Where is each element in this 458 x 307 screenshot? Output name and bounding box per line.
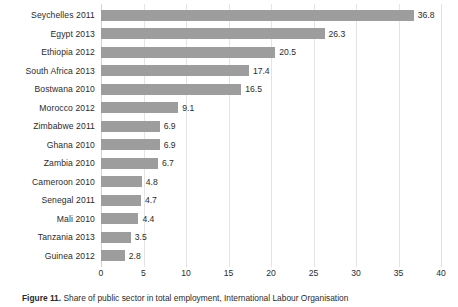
- bar-row: Tanzania 20133.5: [0, 228, 458, 247]
- x-axis-tick-label: 30: [351, 268, 361, 278]
- bar-track: 4.7: [101, 191, 441, 210]
- bar-row: Zimbabwe 20116.9: [0, 117, 458, 136]
- bar-track: 20.5: [101, 43, 441, 62]
- bar: [101, 102, 178, 113]
- bar: [101, 121, 160, 132]
- bar-category-label: Morocco 2012: [0, 99, 95, 118]
- bar-value-label: 6.7: [158, 154, 174, 173]
- figure-caption-label: Figure 11.: [22, 293, 61, 303]
- bar-row: Senegal 20114.7: [0, 191, 458, 210]
- bar-track: 9.1: [101, 99, 441, 118]
- bar-row: Zambia 20106.7: [0, 154, 458, 173]
- bar-value-label: 9.1: [178, 99, 194, 118]
- x-axis-tick-label: 5: [141, 268, 146, 278]
- bar: [101, 232, 131, 243]
- bar: [101, 158, 158, 169]
- bar-track: 6.7: [101, 154, 441, 173]
- bar-row: Bostwana 201016.5: [0, 80, 458, 99]
- bar-track: 4.4: [101, 210, 441, 229]
- bar-row: Guinea 20122.8: [0, 247, 458, 266]
- bar-row: Ghana 20106.9: [0, 136, 458, 155]
- bar-value-label: 6.9: [160, 117, 176, 136]
- bar-category-label: Mali 2010: [0, 210, 95, 229]
- bar-track: 6.9: [101, 136, 441, 155]
- bar-track: 26.3: [101, 25, 441, 44]
- bar: [101, 84, 241, 95]
- bar: [101, 213, 138, 224]
- x-axis-tick-label: 25: [309, 268, 319, 278]
- bar: [101, 250, 125, 261]
- bar-value-label: 17.4: [249, 62, 270, 81]
- bar: [101, 47, 275, 58]
- bar-category-label: Ethiopia 2012: [0, 43, 95, 62]
- bar-value-label: 16.5: [241, 80, 262, 99]
- bar-category-label: Ghana 2010: [0, 136, 95, 155]
- bar: [101, 176, 142, 187]
- x-axis-tick-label: 40: [436, 268, 446, 278]
- bar-value-label: 6.9: [160, 136, 176, 155]
- bar-category-label: Bostwana 2010: [0, 80, 95, 99]
- bar: [101, 139, 160, 150]
- x-axis-tick-label: 20: [266, 268, 276, 278]
- bar-category-label: Egypt 2013: [0, 25, 95, 44]
- bar-track: 2.8: [101, 247, 441, 266]
- bar-value-label: 4.4: [138, 210, 154, 229]
- bar: [101, 195, 141, 206]
- bar: [101, 28, 325, 39]
- bar-value-label: 4.8: [142, 173, 158, 192]
- x-axis-tick-label: 10: [181, 268, 191, 278]
- plot-area: Seychelles 201136.8Egypt 201326.3Ethiopi…: [0, 0, 458, 288]
- bar-category-label: Zambia 2010: [0, 154, 95, 173]
- x-axis-tick-label: 15: [224, 268, 234, 278]
- figure-caption: Figure 11. Share of public sector in tot…: [22, 293, 452, 307]
- x-axis-tick-label: 35: [394, 268, 404, 278]
- bar-track: 3.5: [101, 228, 441, 247]
- bar-row: Morocco 20129.1: [0, 99, 458, 118]
- bar-track: 36.8: [101, 6, 441, 25]
- bar: [101, 65, 249, 76]
- bar-row: Egypt 201326.3: [0, 25, 458, 44]
- bar-track: 17.4: [101, 62, 441, 81]
- bar-track: 6.9: [101, 117, 441, 136]
- bar-category-label: Senegal 2011: [0, 191, 95, 210]
- bar-value-label: 36.8: [414, 6, 435, 25]
- bar-row: South Africa 201317.4: [0, 62, 458, 81]
- bar-track: 16.5: [101, 80, 441, 99]
- bar-track: 4.8: [101, 173, 441, 192]
- bar-category-label: South Africa 2013: [0, 62, 95, 81]
- bar-value-label: 4.7: [141, 191, 157, 210]
- bar-category-label: Cameroon 2010: [0, 173, 95, 192]
- bar-value-label: 20.5: [275, 43, 296, 62]
- bar-value-label: 26.3: [325, 25, 346, 44]
- bar-category-label: Guinea 2012: [0, 247, 95, 266]
- bar-row: Mali 20104.4: [0, 210, 458, 229]
- bar-row: Cameroon 20104.8: [0, 173, 458, 192]
- bar-value-label: 3.5: [131, 228, 147, 247]
- bar-value-label: 2.8: [125, 247, 141, 266]
- bar-category-label: Zimbabwe 2011: [0, 117, 95, 136]
- bar-category-label: Seychelles 2011: [0, 6, 95, 25]
- bar-rows: Seychelles 201136.8Egypt 201326.3Ethiopi…: [0, 6, 458, 265]
- bar-category-label: Tanzania 2013: [0, 228, 95, 247]
- bar-row: Seychelles 201136.8: [0, 6, 458, 25]
- bar-chart-figure: Seychelles 201136.8Egypt 201326.3Ethiopi…: [0, 0, 458, 307]
- x-axis-tick-label: 0: [99, 268, 104, 278]
- x-axis: 0510152025303540: [101, 268, 441, 282]
- bar-row: Ethiopia 201220.5: [0, 43, 458, 62]
- bar: [101, 10, 414, 21]
- figure-caption-text: Share of public sector in total employme…: [63, 293, 348, 303]
